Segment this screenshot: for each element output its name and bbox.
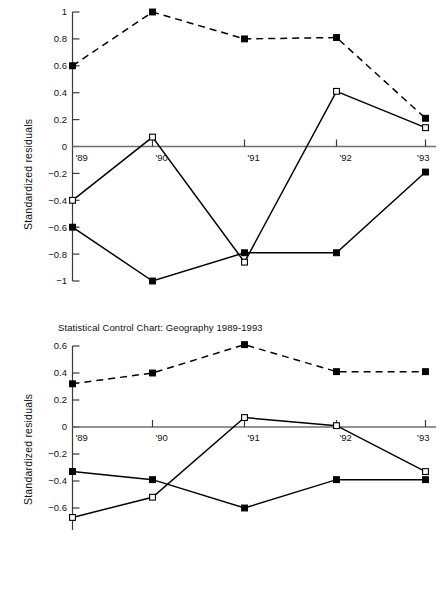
- chart-panel-top: Standardized residuals 10.80.60.40.20−0.…: [0, 0, 442, 300]
- y-axis-tick-label: −0.2: [48, 448, 67, 459]
- y-axis-tick-label: −0.6: [48, 222, 67, 233]
- legend: Key: Upper CL Lower CL Residual: [0, 548, 442, 588]
- x-axis-tick-label: '92: [340, 432, 352, 443]
- y-axis-tick-label: 0.4: [54, 367, 67, 378]
- data-point-marker: [242, 505, 248, 511]
- data-point-marker: [70, 381, 76, 387]
- figure-page: Standardized residuals 10.80.60.40.20−0.…: [0, 0, 442, 591]
- series-line-lower-cl: [73, 472, 426, 508]
- data-point-marker: [242, 342, 248, 348]
- data-point-marker: [334, 88, 340, 94]
- x-axis-tick-label: '92: [340, 152, 352, 163]
- data-point-marker: [423, 369, 429, 375]
- data-point-marker: [334, 369, 340, 375]
- x-axis-tick-label: '90: [156, 432, 168, 443]
- data-point-marker: [150, 370, 156, 376]
- data-point-marker: [242, 250, 248, 256]
- data-point-marker: [150, 278, 156, 284]
- data-point-marker: [334, 35, 340, 41]
- data-point-marker: [334, 477, 340, 483]
- data-point-marker: [423, 125, 429, 131]
- data-point-marker: [423, 469, 429, 475]
- chart-bottom-canvas: 0.60.40.20−0.2−0.4−0.6−0.8'89'90'91'92'9…: [0, 300, 442, 530]
- data-point-marker: [150, 9, 156, 15]
- data-point-marker: [70, 63, 76, 69]
- data-point-marker: [70, 469, 76, 475]
- x-axis-tick-label: '93: [417, 152, 429, 163]
- data-point-marker: [423, 115, 429, 121]
- y-axis-tick-label: 0: [62, 421, 67, 432]
- y-axis-tick-label: 0: [62, 141, 67, 152]
- x-axis-tick-label: '91: [248, 152, 260, 163]
- series-line-upper-cl: [73, 12, 426, 118]
- data-point-marker: [70, 197, 76, 203]
- y-axis-tick-label: −0.6: [48, 502, 67, 513]
- data-point-marker: [242, 259, 248, 265]
- y-axis-tick-label: 0.2: [54, 114, 67, 125]
- data-point-marker: [242, 415, 248, 421]
- y-axis-tick-label: −0.8: [48, 529, 67, 530]
- chart-top-svg: 10.80.60.40.20−0.2−0.4−0.6−0.8−1'89'90'9…: [0, 0, 442, 300]
- chart-panel-bottom: Statistical Control Chart: Geography 198…: [0, 300, 442, 530]
- data-point-marker: [423, 169, 429, 175]
- data-point-marker: [242, 36, 248, 42]
- y-axis-tick-label: 1: [62, 6, 67, 17]
- series-line-upper-cl: [73, 345, 426, 384]
- y-axis-tick-label: 0.2: [54, 394, 67, 405]
- data-point-marker: [334, 423, 340, 429]
- y-axis-tick-label: −0.8: [48, 249, 67, 260]
- data-point-marker: [150, 494, 156, 500]
- y-axis-tick-label: −0.2: [48, 168, 67, 179]
- series-line-residual: [73, 91, 426, 262]
- x-axis-tick-label: '90: [156, 152, 168, 163]
- data-point-marker: [423, 477, 429, 483]
- x-axis-tick-label: '93: [417, 432, 429, 443]
- y-axis-tick-label: 0.6: [54, 340, 67, 351]
- x-axis-tick-label: '89: [76, 432, 88, 443]
- data-point-marker: [70, 224, 76, 230]
- y-axis-tick-label: 0.8: [54, 33, 67, 44]
- x-axis-tick-label: '89: [76, 152, 88, 163]
- series-line-lower-cl: [73, 172, 426, 281]
- y-axis-tick-label: −0.4: [48, 475, 67, 486]
- chart-top-canvas: 10.80.60.40.20−0.2−0.4−0.6−0.8−1'89'90'9…: [0, 0, 442, 300]
- y-axis-tick-label: −0.4: [48, 195, 67, 206]
- data-point-marker: [334, 250, 340, 256]
- data-point-marker: [150, 134, 156, 140]
- data-point-marker: [70, 515, 76, 521]
- y-axis-tick-label: −1: [56, 275, 67, 286]
- data-point-marker: [150, 477, 156, 483]
- x-axis-tick-label: '91: [248, 432, 260, 443]
- chart-bottom-svg: 0.60.40.20−0.2−0.4−0.6−0.8'89'90'91'92'9…: [0, 300, 442, 530]
- y-axis-tick-label: 0.6: [54, 60, 67, 71]
- y-axis-tick-label: 0.4: [54, 87, 67, 98]
